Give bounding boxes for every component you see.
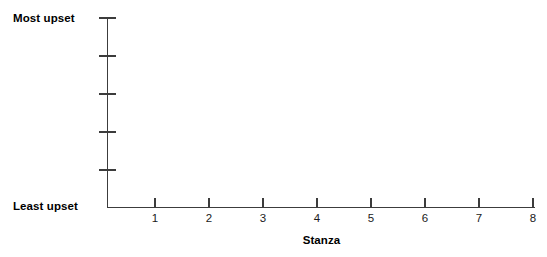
y-axis-high-label: Most upset <box>13 11 75 25</box>
x-axis-tick-label: 4 <box>304 211 330 225</box>
chart-figure: Most upset Least upset 12345678 Stanza <box>0 0 547 257</box>
x-axis-tick-label: 2 <box>196 211 222 225</box>
x-axis-title-text: Stanza <box>303 234 341 246</box>
x-axis-tick-label: 1 <box>142 211 168 225</box>
plot-area <box>108 18 535 207</box>
x-axis-title: Stanza <box>0 234 547 246</box>
x-axis-tick-label: 3 <box>250 211 276 225</box>
x-axis-tick-label: 7 <box>466 211 492 225</box>
y-axis-low-label: Least upset <box>13 199 78 213</box>
x-axis-tick-label: 5 <box>358 211 384 225</box>
x-axis-tick-label: 8 <box>520 211 546 225</box>
x-axis-tick-label: 6 <box>412 211 438 225</box>
